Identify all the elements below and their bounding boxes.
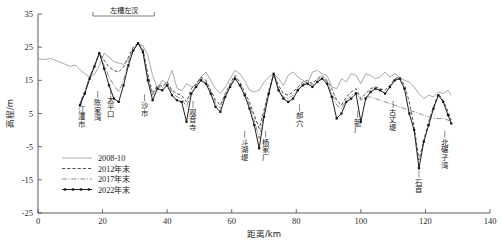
site-label-char: 堤 [241,153,249,162]
x-tick-label: 80 [292,216,301,226]
series-marker [437,94,439,96]
site-label-group: 石首 [415,171,422,195]
y-tick-label: 15 [25,75,34,85]
series-marker [302,84,304,86]
series-marker [413,129,415,131]
series-marker [379,89,381,91]
series-marker [205,83,207,85]
series-marker [210,93,212,95]
series-marker [181,101,183,103]
chart-canvas: -25-15-55152535020406080100120140距离/km高程… [0,0,503,241]
x-tick-label: 140 [484,216,497,226]
series-marker [258,147,260,149]
series-marker [311,86,313,88]
series-marker [84,93,86,95]
site-label-group: 江澧市 [78,98,86,129]
site-label-char: 湾 [441,161,449,170]
series-marker [219,111,221,113]
series-marker [166,84,168,86]
series-marker [277,89,279,91]
series-marker [399,78,401,80]
series-marker [345,101,347,103]
series-marker [384,93,386,95]
legend-marker [64,188,66,190]
series-marker [137,42,139,44]
series-marker [282,97,284,99]
series-marker [161,89,163,91]
site-label-char: 口 [107,110,114,119]
x-tick-label: 40 [163,216,172,226]
site-label-group: 北碾子湾 [441,131,449,170]
series-marker [239,84,241,86]
series-marker [350,97,352,99]
series-marker [185,121,187,123]
site-label-char: 市 [141,109,149,118]
series-marker [244,94,246,96]
series-marker [450,122,452,124]
y-tick-label: -5 [26,142,33,152]
series-marker [389,86,391,88]
site-label-group: 太平口 [107,88,115,119]
y-tick-label: -25 [22,208,33,218]
series-marker [147,79,149,81]
series-marker [253,124,255,126]
site-label-group: 观音寺 [189,101,197,132]
series-marker [403,88,405,90]
x-tick-label: 60 [227,216,236,226]
x-axis-title: 距离/km [247,229,281,239]
x-tick-label: 20 [98,216,107,226]
annotation-label: 左槽左汊 [110,6,139,15]
series-marker [306,83,308,85]
series-marker [287,101,289,103]
series-marker [369,91,371,93]
series-marker [336,117,338,119]
series-marker [355,93,357,95]
series-marker [273,73,275,75]
x-tick-label: 100 [354,216,367,226]
series-marker [326,83,328,85]
y-tick-label: 25 [25,42,34,52]
series-marker [89,78,91,80]
series-marker [365,97,367,99]
series-marker [142,51,144,53]
series-marker [156,88,158,90]
site-label-char: 市 [78,120,86,129]
legend-label-2: 2017年末 [98,174,130,184]
site-label-char: 湾 [94,113,102,122]
series-marker [447,114,449,116]
series-marker [190,93,192,95]
series-marker [442,101,444,103]
series-marker [423,141,425,143]
site-label-char: 穴 [296,119,304,128]
series-marker [108,84,110,86]
series-marker [229,86,231,88]
site-label-group: 新厂 [354,111,362,135]
legend-label-0: 2008-10 [98,154,125,163]
series-marker [234,78,236,80]
series-marker [171,94,173,96]
series-marker [331,96,333,98]
site-label-char: 厂 [354,125,361,134]
site-label-group: 沙市 [141,94,149,118]
legend-marker [80,188,82,190]
series-marker [432,107,434,109]
series-marker [118,101,120,103]
series-marker [122,84,124,86]
legend-marker [72,188,74,190]
series-marker [195,86,197,88]
series-marker [263,116,265,118]
series-marker [224,96,226,98]
series-marker [214,106,216,108]
series-marker [374,88,376,90]
site-label-group: 陈家湾 [94,91,102,122]
series-marker [268,93,270,95]
series-marker [428,124,430,126]
site-label-char: 首 [415,185,422,194]
series-marker [248,107,250,109]
site-label-char: 堤 [389,123,397,132]
series-marker [103,68,105,70]
site-label-char: 寺 [189,123,196,132]
series-marker [200,79,202,81]
series-marker [297,89,299,91]
legend-label-3: 2022年末 [98,185,130,195]
